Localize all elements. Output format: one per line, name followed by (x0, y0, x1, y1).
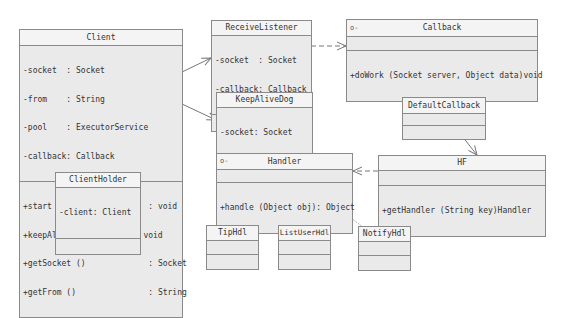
operation-row: + getSocket () : Socket (23, 259, 179, 269)
attribute-row: - client : Client (59, 208, 137, 218)
class-name: ListUserHdl (279, 226, 330, 241)
attributes-section (359, 242, 410, 256)
class-name: ReceiveListener (212, 21, 311, 36)
attributes-section: - client : Client (56, 188, 140, 239)
operations-section (359, 256, 410, 270)
operation-row: + handle (Object obj) : Object (220, 203, 349, 213)
attributes-section (279, 241, 330, 255)
class-handler: o- Handler + handle (Object obj) : Objec… (216, 153, 353, 234)
attributes-section (347, 37, 537, 51)
operation-row: + doWork (Socket server, Object data)voi… (350, 71, 534, 81)
operations-section: + doWork (Socket server, Object data)voi… (347, 51, 537, 101)
class-list-user-hdl: ListUserHdl (278, 225, 331, 270)
interface-icon: o- (350, 20, 358, 36)
operation-row: + getHandler (String key) Handler (382, 206, 542, 216)
assoc-client-receivelistener (182, 58, 211, 72)
class-name: Callback (423, 23, 462, 32)
attribute-row: - socket : Socket (215, 56, 308, 66)
attribute-row: - callback : Callback (23, 152, 179, 162)
class-notify-hdl: NotifyHdl (358, 226, 411, 271)
class-client-holder: ClientHolder - client : Client (55, 172, 141, 255)
class-name: KeepAliveDog (217, 93, 312, 108)
attributes-section (217, 170, 352, 183)
attributes-section (207, 241, 258, 255)
class-name: Handler (268, 157, 302, 166)
attribute-row: - socket : Socket (220, 128, 309, 138)
attributes-section (403, 114, 485, 126)
class-header: o- Handler (217, 154, 352, 170)
operations-section (279, 255, 330, 269)
class-callback: o- Callback + doWork (Socket server, Obj… (346, 19, 538, 102)
class-name: NotifyHdl (359, 227, 410, 242)
attributes-section (379, 171, 545, 186)
class-name: HF (379, 156, 545, 171)
attributes-section: - socket : Socket - from : String - pool… (20, 46, 182, 182)
operations-section (403, 126, 485, 139)
interface-icon: o- (220, 154, 228, 169)
class-name: Client (20, 30, 182, 46)
attribute-row: - socket : Socket (23, 66, 179, 76)
class-name: DefaultCallback (403, 98, 485, 114)
operations-section (207, 255, 258, 269)
operation-row: + getFrom () : String (23, 288, 179, 298)
attribute-row: - from : String (23, 95, 179, 105)
class-name: TipHdl (207, 226, 258, 241)
class-name: ClientHolder (56, 173, 140, 188)
attribute-row: - pool : ExecutorService (23, 123, 179, 133)
operations-section (56, 239, 140, 254)
class-hf: HF + getHandler (String key) Handler (378, 155, 546, 237)
class-tip-hdl: TipHdl (206, 225, 259, 270)
class-default-callback: DefaultCallback (402, 97, 486, 140)
class-header: o- Callback (347, 20, 537, 37)
